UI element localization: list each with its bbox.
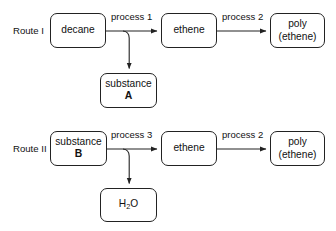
node-substance-a-line1: substance xyxy=(105,78,151,90)
node-ethene-bottom: ethene xyxy=(161,131,217,166)
route-2-label: Route II xyxy=(13,143,47,154)
edge-label-process-2-bottom: process 2 xyxy=(221,129,264,140)
node-poly-ethene-bottom-line2: (ethene) xyxy=(279,149,317,161)
node-water-label: H2O xyxy=(119,198,138,211)
node-ethene-top-label: ethene xyxy=(173,24,204,36)
node-poly-ethene-top: poly (ethene) xyxy=(270,13,325,48)
node-substance-a: substance A xyxy=(100,73,157,108)
connector-process-3 xyxy=(107,149,157,184)
node-water: H2O xyxy=(100,188,157,222)
node-decane: decane xyxy=(50,13,106,48)
node-substance-b-line2: B xyxy=(75,148,83,160)
node-substance-a-line2: A xyxy=(125,90,133,102)
node-poly-ethene-top-line1: poly xyxy=(288,18,307,30)
node-decane-label: decane xyxy=(61,24,94,36)
edge-label-process-1: process 1 xyxy=(110,11,153,22)
edge-label-process-2-top: process 2 xyxy=(221,11,264,22)
node-ethene-bottom-label: ethene xyxy=(173,142,204,154)
node-substance-b-line1: substance xyxy=(55,136,101,148)
node-poly-ethene-bottom: poly (ethene) xyxy=(270,131,325,166)
node-poly-ethene-bottom-line1: poly xyxy=(288,136,307,148)
route-1-label: Route I xyxy=(13,25,44,36)
node-poly-ethene-top-line2: (ethene) xyxy=(279,31,317,43)
node-substance-b: substance B xyxy=(50,131,107,166)
flow-diagram: Route I Route II decane ethene poly (eth… xyxy=(0,0,336,231)
edge-label-process-3: process 3 xyxy=(110,129,153,140)
connector-process-1 xyxy=(106,31,158,69)
node-ethene-top: ethene xyxy=(161,13,217,48)
